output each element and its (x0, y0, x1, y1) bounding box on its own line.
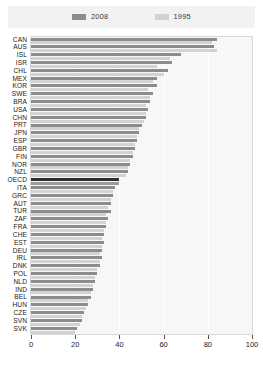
bar-row[interactable] (31, 279, 252, 287)
bar-row[interactable] (31, 45, 252, 53)
bar-row[interactable] (31, 115, 252, 123)
bar-2008 (31, 131, 139, 134)
bar-2008 (31, 303, 88, 306)
x-axis-tick-label: 60 (159, 341, 167, 349)
bar-row[interactable] (31, 186, 252, 194)
y-axis-label-chn: CHN (0, 115, 27, 122)
x-axis-tick (75, 335, 76, 339)
bar-row[interactable] (31, 201, 252, 209)
y-axis-label-mex: MEX (0, 76, 27, 83)
x-axis: 020406080100 (30, 335, 253, 357)
y-axis-label-deu: DEU (0, 248, 27, 255)
bar-2008 (31, 77, 157, 80)
bar-row[interactable] (31, 53, 252, 61)
bar-2008 (31, 272, 97, 275)
bar-2008 (31, 178, 119, 181)
bar-row[interactable] (31, 240, 252, 248)
x-axis-tick (252, 335, 253, 339)
y-axis-label-bel: BEL (0, 294, 27, 301)
bar-row[interactable] (31, 326, 252, 334)
bar-row[interactable] (31, 271, 252, 279)
bar-row[interactable] (31, 217, 252, 225)
y-axis-label-fin: FIN (0, 154, 27, 161)
bar-2008 (31, 108, 148, 111)
bar-row[interactable] (31, 131, 252, 139)
y-axis-label-aut: AUT (0, 201, 27, 208)
y-axis-label-fra: FRA (0, 224, 27, 231)
bar-row[interactable] (31, 232, 252, 240)
bar-row[interactable] (31, 162, 252, 170)
bar-row[interactable] (31, 225, 252, 233)
bar-row[interactable] (31, 37, 252, 45)
bar-row[interactable] (31, 146, 252, 154)
bar-row[interactable] (31, 209, 252, 217)
bar-2008 (31, 100, 150, 103)
y-axis-label-cze: CZE (0, 310, 27, 317)
legend-item-1995[interactable]: 1995 (155, 13, 192, 21)
bar-row[interactable] (31, 193, 252, 201)
y-axis-label-tur: TUR (0, 208, 27, 215)
legend-label-1995: 1995 (174, 13, 192, 21)
bar-2008 (31, 202, 111, 205)
bar-row[interactable] (31, 170, 252, 178)
bar-2008 (31, 194, 113, 197)
bar-row[interactable] (31, 311, 252, 319)
bar-2008 (31, 256, 102, 259)
bar-2008 (31, 319, 82, 322)
bar-row[interactable] (31, 318, 252, 326)
y-axis-labels: CANAUSISLISRCHLMEXKORSWEBRAUSACHNPRTJPNE… (0, 36, 29, 335)
bar-2008 (31, 217, 108, 220)
bar-row[interactable] (31, 303, 252, 311)
y-axis-label-zaf: ZAF (0, 216, 27, 223)
bar-2008 (31, 116, 146, 119)
bar-row[interactable] (31, 248, 252, 256)
bar-row[interactable] (31, 107, 252, 115)
bar-2008 (31, 170, 128, 173)
bar-row[interactable] (31, 76, 252, 84)
bar-row[interactable] (31, 264, 252, 272)
legend-item-2008[interactable]: 2008 (72, 13, 109, 21)
bar-2008 (31, 327, 77, 330)
bar-2008 (31, 311, 84, 314)
bar-1995 (31, 331, 75, 334)
bar-2008 (31, 84, 157, 87)
legend-label-2008: 2008 (91, 13, 109, 21)
y-axis-label-oecd: OECD (0, 177, 27, 184)
bar-2008 (31, 210, 111, 213)
bar-row[interactable] (31, 256, 252, 264)
x-axis-tick-label: 40 (115, 341, 123, 349)
y-axis-label-aus: AUS (0, 44, 27, 51)
bar-row[interactable] (31, 123, 252, 131)
bar-rows (31, 37, 252, 334)
bar-row[interactable] (31, 92, 252, 100)
y-axis-label-dnk: DNK (0, 263, 27, 270)
bar-row[interactable] (31, 84, 252, 92)
bar-2008 (31, 264, 100, 267)
bar-2008 (31, 296, 91, 299)
bar-row[interactable] (31, 178, 252, 186)
y-axis-label-pol: POL (0, 271, 27, 278)
bar-2008 (31, 225, 106, 228)
legend-swatch-1995 (155, 14, 169, 20)
bar-2008 (31, 249, 102, 252)
y-axis-label-irl: IRL (0, 255, 27, 262)
x-axis-tick-label: 0 (29, 341, 33, 349)
bar-row[interactable] (31, 287, 252, 295)
bar-2008 (31, 147, 135, 150)
y-axis-label-est: EST (0, 240, 27, 247)
bar-row[interactable] (31, 295, 252, 303)
y-axis-label-svn: SVN (0, 318, 27, 325)
bar-row[interactable] (31, 154, 252, 162)
chart-root: 2008 1995 CANAUSISLISRCHLMEXKORSWEBRAUSA… (0, 0, 263, 369)
bar-row[interactable] (31, 139, 252, 147)
bar-row[interactable] (31, 68, 252, 76)
y-axis-label-nor: NOR (0, 162, 27, 169)
bar-row[interactable] (31, 100, 252, 108)
x-axis-tick (164, 335, 165, 339)
bar-2008 (31, 163, 130, 166)
y-axis-label-bra: BRA (0, 99, 27, 106)
y-axis-label-jpn: JPN (0, 130, 27, 137)
x-axis-tick (119, 335, 120, 339)
y-axis-label-gbr: GBR (0, 146, 27, 153)
bar-row[interactable] (31, 60, 252, 68)
